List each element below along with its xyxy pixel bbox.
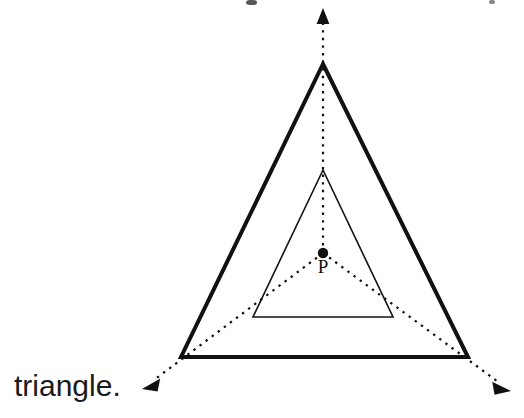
ray-down-right-arrowhead-icon [492,382,511,395]
clipped-glyph-center [246,0,257,5]
point-label-p: P [318,256,329,277]
construction-rays [142,8,511,395]
outer-triangle [181,64,468,357]
clipped-glyph-right [489,0,495,4]
ray-down-left-arrowhead-icon [142,379,160,392]
caption-text: triangle. [14,369,121,402]
clipped-text-row [246,0,495,5]
ray-up-arrowhead-icon [317,8,330,24]
figure-canvas: P triangle. [0,0,524,418]
geometry-figure-root: P triangle. [0,0,524,418]
